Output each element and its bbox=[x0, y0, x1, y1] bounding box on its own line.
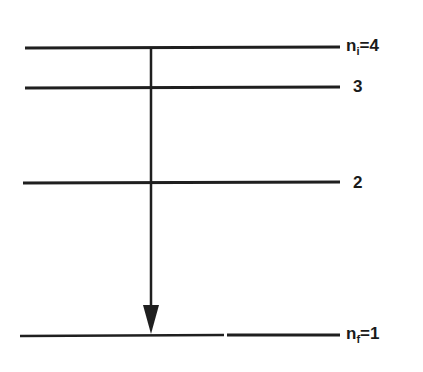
level-label-n-f-1: nf=1 bbox=[346, 325, 379, 345]
energy-level-2-line bbox=[23, 182, 340, 183]
label-n: n bbox=[346, 36, 356, 55]
label-value: 2 bbox=[353, 173, 362, 192]
label-n: n bbox=[346, 324, 356, 343]
transition-arrow-head bbox=[143, 305, 159, 334]
energy-level-3-line bbox=[25, 87, 340, 88]
level-label-n-i-4: ni=4 bbox=[346, 37, 379, 57]
level-label-2: 2 bbox=[353, 174, 362, 191]
energy-level-4-line bbox=[25, 47, 340, 48]
level-label-3: 3 bbox=[353, 78, 362, 95]
label-value: 3 bbox=[353, 77, 362, 96]
energy-level-1-line-left bbox=[20, 335, 224, 336]
label-value: =1 bbox=[360, 324, 379, 343]
label-value: =4 bbox=[359, 36, 378, 55]
